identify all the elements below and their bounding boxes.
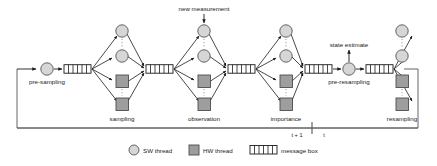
sw-thread-node [198, 50, 210, 62]
cluster-sampling: sampling [92, 25, 144, 122]
sw-thread-node [396, 25, 408, 37]
sw-thread-node [280, 25, 292, 37]
label-state-estimate: state estimate [330, 41, 369, 48]
cluster-importance: importance [256, 25, 303, 122]
annotation-new-measurement: new measurement [179, 5, 230, 23]
hw-thread-node [198, 98, 211, 111]
message-box-4 [305, 65, 332, 74]
hw-thread-node [280, 75, 293, 88]
hw-thread-node [198, 75, 211, 88]
legend-label-sw-thread: SW thread [143, 147, 173, 154]
hw-thread-icon [189, 145, 199, 155]
node-pre-sampling: pre-sampling [29, 63, 65, 85]
message-box-1 [64, 65, 91, 74]
diagram-canvas: pre-sampling sampling [0, 0, 437, 166]
sw-thread-icon [129, 145, 139, 155]
label-pre-sampling: pre-sampling [29, 78, 65, 85]
message-box-5 [366, 65, 393, 74]
label-observation: observation [188, 115, 221, 122]
legend-label-hw-thread: HW thread [203, 147, 233, 154]
message-box-2 [146, 65, 173, 74]
label-pre-resampling: pre-resampling [328, 78, 370, 85]
time-axis-label-right: t [323, 132, 325, 138]
message-box-icon [250, 146, 277, 155]
node-pre-resampling: state estimate pre-resampling [328, 41, 370, 85]
label-importance: importance [271, 115, 302, 122]
hw-thread-node [396, 75, 409, 88]
legend-item-hw-thread: HW thread [189, 145, 233, 155]
legend: SW thread HW thread message box [129, 145, 319, 155]
sw-thread-node [396, 50, 408, 62]
hw-thread-node [116, 98, 129, 111]
label-sampling: sampling [110, 115, 135, 122]
sw-thread-node [280, 50, 292, 62]
hw-thread-node [280, 98, 293, 111]
sw-thread-node [198, 25, 210, 37]
time-axis: t + 1 t [17, 122, 418, 138]
hw-thread-node [116, 75, 129, 88]
legend-item-message-box: message box [250, 146, 319, 155]
message-box-3 [228, 65, 255, 74]
legend-item-sw-thread: SW thread [129, 145, 173, 155]
particle-filter-pipeline-diagram: pre-sampling sampling [0, 0, 437, 166]
label-resampling: resampling [387, 115, 418, 122]
legend-label-message-box: message box [281, 147, 319, 154]
label-new-measurement: new measurement [179, 5, 230, 12]
time-axis-label-left: t + 1 [291, 132, 302, 138]
cluster-observation: observation [174, 25, 226, 122]
sw-thread-node [116, 25, 128, 37]
hw-thread-node [396, 98, 409, 111]
sw-thread-node [116, 50, 128, 62]
